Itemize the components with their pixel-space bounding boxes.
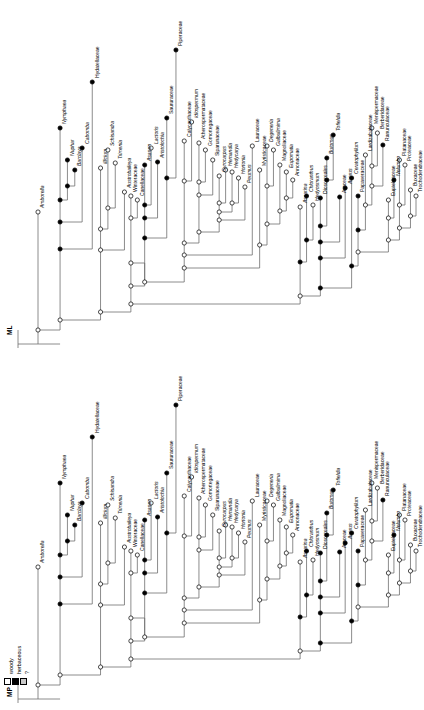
tip-label-nelumbo: Nelumbo: [396, 511, 401, 531]
tip-node-canellaceae: [135, 553, 139, 557]
tip-label-hedycarya: Hedycarya: [234, 144, 239, 168]
tip-node-galbulimima: [271, 503, 275, 507]
internal-node-0: [65, 539, 69, 543]
tip-label-saururaceae: Saururaceae: [169, 440, 174, 469]
tip-node-trochodendraceae: [414, 549, 418, 553]
internal-node-50: [129, 657, 133, 661]
internal-node-4: [106, 561, 110, 565]
internal-node-34: [318, 579, 322, 583]
tip-label-trochodendraceae: Trochodendraceae: [418, 150, 423, 192]
tip-label-acorus: Acorus: [348, 523, 353, 539]
internal-node-47: [350, 619, 354, 623]
tip-label-aristolochia: Aristolochia: [160, 132, 165, 158]
tip-label-degeneria: Degeneria: [269, 474, 274, 497]
tip-label-trimenia: Trimenia: [118, 140, 123, 159]
tip-label-piperaceae: Piperaceae: [178, 376, 183, 401]
tip-label-atherospermataceae: Atherospermataceae: [201, 93, 206, 139]
internal-node-36: [318, 611, 322, 615]
tip-label-lauraceae: Lauraceae: [255, 473, 260, 497]
internal-node-10: [165, 531, 169, 535]
tip-label-amborella: Amborella: [40, 186, 45, 208]
internal-node-9: [143, 571, 147, 575]
tip-label-amborella: Amborella: [40, 541, 45, 563]
internal-node-49: [298, 649, 302, 653]
tip-label-nymphaea: Nymphaea: [62, 455, 67, 479]
tip-label-gomortegaceae: Gomortegaceae: [208, 110, 213, 146]
tip-label-hedyosmum: Hedyosmum: [315, 173, 320, 201]
legend-swatch-herbaceous: [12, 678, 19, 685]
internal-node-23: [284, 551, 288, 555]
tip-node-illicium: [98, 521, 102, 525]
tip-label-ascarina: Ascarina: [303, 539, 308, 558]
internal-node-3: [58, 602, 62, 606]
tip-label-asarum: Asarum: [147, 499, 152, 516]
tip-label-winteraceae: Winteraceae: [133, 164, 138, 192]
tip-label-cabomba: Cabomba: [85, 122, 90, 144]
tip-label-ascarina: Ascarina: [303, 184, 308, 203]
tip-label-trochodendraceae: Trochodendraceae: [418, 505, 423, 547]
tip-label-papaveraceae: Papaveraceae: [360, 160, 365, 192]
tip-label-nuphar: Nuphar: [70, 495, 75, 511]
tip-label-proteaceae: Proteaceae: [407, 490, 412, 516]
tip-node-austrobaileya: [122, 545, 126, 549]
internal-node-11: [143, 591, 147, 595]
tip-node-peumus: [243, 540, 247, 544]
tip-label-barclaya: Barclaya: [77, 502, 82, 521]
internal-node-39: [363, 558, 367, 562]
tip-label-lactoris: Lactoris: [154, 482, 159, 499]
tip-label-canellaceae: Canellaceae: [140, 168, 145, 196]
tip-label-gomortegaceae: Gomortegaceae: [208, 465, 213, 501]
tip-label-saururaceae: Saururaceae: [169, 85, 174, 114]
tip-node-asarum: [143, 518, 147, 522]
tip-label-tofieldia: Tofieldia: [336, 113, 341, 131]
tip-label-peumus: Peumus: [247, 520, 252, 538]
internal-node-29: [129, 616, 133, 620]
tip-label-ranunculaceae: Ranunculaceae: [385, 461, 390, 496]
tip-label-papaveraceae: Papaveraceae: [360, 515, 365, 547]
tip-label-illicium: Illicium: [103, 504, 108, 519]
tip-label-magnoliaceae: Magnoliaceae: [282, 130, 287, 161]
tip-label-illicium: Illicium: [103, 149, 108, 164]
internal-node-37: [370, 519, 374, 523]
tip-label-calycanthaceae: Calycanthaceae: [187, 456, 192, 492]
tip-node-barclaya: [73, 523, 77, 527]
legend-label-herbaceous: herbaceous: [16, 646, 22, 674]
tip-label-proteaceae: Proteaceae: [407, 135, 412, 161]
tip-node-atherospermataceae: [197, 496, 201, 500]
tip-node-annonaceae: [291, 533, 295, 537]
internal-node-40: [356, 583, 360, 587]
internal-node-31: [304, 593, 308, 597]
legend-label-unknown: ?: [24, 671, 30, 674]
tip-label-ranunculaceae: Ranunculaceae: [385, 106, 390, 141]
internal-node-41: [386, 571, 390, 575]
tip-node-myristicaceae: [258, 523, 262, 527]
internal-node-6: [98, 603, 102, 607]
internal-node-28: [143, 635, 147, 639]
tip-node-gyrocarpus: [217, 529, 221, 533]
tip-label-annonaceae: Annonaceae: [295, 148, 300, 176]
internal-node-19: [197, 585, 201, 589]
legend-swatch-unknown: [20, 678, 27, 685]
internal-node-24: [278, 564, 282, 568]
tip-label-gyrocarpus: Gyrocarpus: [222, 146, 227, 172]
tip-label-tofieldia: Tofieldia: [336, 468, 341, 486]
tip-label-dioscoreales: Dioscoreales: [323, 165, 328, 194]
tip-node-berberidaceae: [375, 486, 379, 490]
ml-tree-label: ML: [6, 325, 13, 335]
internal-node-45: [386, 593, 390, 597]
tip-label-gyrocarpus: Gyrocarpus: [222, 501, 227, 527]
internal-node-32: [298, 615, 302, 619]
internal-node-25: [265, 577, 269, 581]
internal-node-13: [197, 535, 201, 539]
internal-node-7: [129, 571, 133, 575]
internal-node-8: [143, 558, 147, 562]
internal-node-1: [58, 553, 62, 557]
tip-node-calycanthaceae: [182, 494, 186, 498]
tip-label-annonaceae: Annonaceae: [295, 503, 300, 531]
tip-label-degeneria: Degeneria: [269, 119, 274, 142]
tip-label-trimenia: Trimenia: [118, 495, 123, 514]
tip-label-acorus: Acorus: [348, 168, 353, 184]
tip-node-saururaceae: [165, 471, 169, 475]
internal-node-20: [182, 596, 186, 600]
tip-node-hedycarya: [230, 525, 234, 529]
